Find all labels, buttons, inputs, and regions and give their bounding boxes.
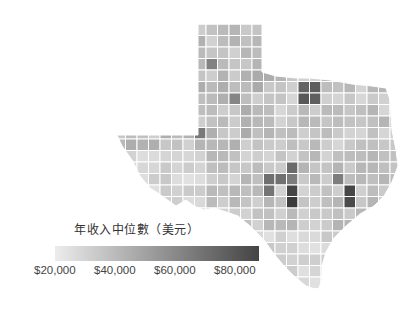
county: [218, 162, 230, 174]
county: [206, 197, 218, 209]
county: [206, 162, 218, 174]
county: [172, 82, 184, 94]
county: [344, 231, 356, 243]
county: [321, 116, 333, 128]
county: [275, 151, 287, 163]
county: [218, 105, 230, 117]
county: [126, 59, 138, 71]
county: [333, 93, 345, 105]
county: [149, 139, 161, 151]
county: [356, 289, 368, 301]
county: [206, 151, 218, 163]
county: [367, 266, 379, 278]
county: [344, 162, 356, 174]
legend-tick: $40,000: [94, 264, 136, 276]
county: [298, 174, 310, 186]
county: [367, 70, 379, 82]
county: [379, 174, 391, 186]
county: [379, 289, 391, 301]
county: [160, 36, 172, 48]
county: [264, 174, 276, 186]
county: [160, 47, 172, 59]
county: [287, 151, 299, 163]
county: [252, 151, 264, 163]
county: [206, 139, 218, 151]
county: [390, 254, 402, 266]
county: [241, 174, 253, 186]
county: [310, 105, 322, 117]
county: [367, 47, 379, 59]
county: [379, 128, 391, 140]
county: [287, 93, 299, 105]
county: [367, 185, 379, 197]
county: [390, 70, 402, 82]
county: [114, 197, 126, 209]
county: [183, 70, 195, 82]
county: [137, 36, 149, 48]
county: [229, 128, 241, 140]
county: [379, 162, 391, 174]
county: [206, 82, 218, 94]
county: [287, 289, 299, 301]
county: [356, 151, 368, 163]
county: [160, 59, 172, 71]
county: [126, 289, 138, 301]
county: [114, 151, 126, 163]
county: [206, 105, 218, 117]
county: [367, 36, 379, 48]
county: [333, 116, 345, 128]
county: [310, 82, 322, 94]
county: [310, 243, 322, 255]
county: [356, 185, 368, 197]
county: [160, 24, 172, 36]
county: [149, 289, 161, 301]
county: [390, 197, 402, 209]
county: [367, 128, 379, 140]
county: [126, 128, 138, 140]
county: [344, 277, 356, 289]
county: [218, 24, 230, 36]
county: [183, 162, 195, 174]
county: [241, 231, 253, 243]
county: [356, 139, 368, 151]
county: [390, 208, 402, 220]
county: [160, 93, 172, 105]
county: [195, 197, 207, 209]
county: [126, 185, 138, 197]
county: [321, 47, 333, 59]
county: [298, 47, 310, 59]
county: [298, 208, 310, 220]
county: [195, 162, 207, 174]
county: [379, 231, 391, 243]
county: [310, 197, 322, 209]
county: [333, 231, 345, 243]
county: [333, 139, 345, 151]
county: [356, 254, 368, 266]
county: [287, 36, 299, 48]
county: [229, 139, 241, 151]
county: [275, 185, 287, 197]
county: [229, 185, 241, 197]
county: [367, 116, 379, 128]
county: [287, 162, 299, 174]
county: [287, 254, 299, 266]
county: [367, 208, 379, 220]
county: [344, 254, 356, 266]
county: [298, 128, 310, 140]
county: [206, 231, 218, 243]
county: [379, 70, 391, 82]
county: [356, 266, 368, 278]
county: [241, 47, 253, 59]
county: [218, 116, 230, 128]
county: [137, 59, 149, 71]
county: [229, 220, 241, 232]
county: [241, 93, 253, 105]
county: [206, 59, 218, 71]
county: [172, 105, 184, 117]
county: [333, 266, 345, 278]
county: [287, 185, 299, 197]
county: [206, 128, 218, 140]
county: [218, 289, 230, 301]
county: [344, 128, 356, 140]
county: [367, 139, 379, 151]
